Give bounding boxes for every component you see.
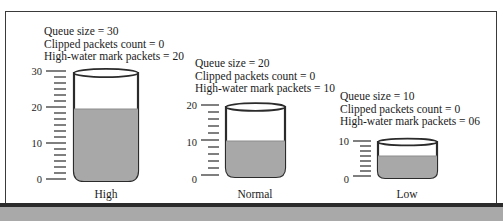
caption-low: Queue size = 10 Clipped packets count = … bbox=[340, 90, 480, 128]
figure-frame: Queue size = 30 Clipped packets count = … bbox=[5, 11, 497, 205]
caption-low-line1: Queue size = 10 bbox=[340, 90, 480, 103]
beaker-label-high: High bbox=[76, 188, 136, 200]
panel-normal: Queue size = 20 Clipped packets count = … bbox=[151, 12, 311, 204]
beaker-high-rim bbox=[74, 69, 138, 77]
beaker-high-graphic bbox=[44, 67, 140, 187]
page-bottom-shadow bbox=[0, 207, 503, 221]
beaker-normal-rim bbox=[226, 103, 285, 111]
caption-low-line2: Clipped packets count = 0 bbox=[340, 103, 480, 116]
scale-ticks-high bbox=[46, 71, 66, 179]
axis-tick-label-low-0: 0 bbox=[327, 174, 349, 185]
figure-root: Queue size = 30 Clipped packets count = … bbox=[0, 0, 503, 221]
beaker-high-fill bbox=[72, 109, 140, 183]
axis-tick-label-high-10: 10 bbox=[20, 138, 42, 149]
beaker-normal-fill bbox=[224, 141, 287, 179]
axis-tick-label-high-30: 30 bbox=[20, 66, 42, 77]
beaker-low-rim bbox=[378, 139, 437, 146]
axis-tick-label-high-0: 0 bbox=[20, 174, 42, 185]
beaker-low-graphic bbox=[351, 137, 441, 191]
axis-tick-label-normal-10: 10 bbox=[175, 137, 197, 148]
beaker-low bbox=[351, 137, 441, 191]
panel-low: Queue size = 10 Clipped packets count = … bbox=[301, 12, 496, 204]
axis-tick-label-normal-0: 0 bbox=[175, 174, 197, 185]
axis-tick-label-normal-20: 20 bbox=[175, 100, 197, 111]
beaker-normal bbox=[199, 101, 289, 189]
scale-ticks-normal bbox=[201, 105, 219, 175]
axis-tick-label-low-10: 10 bbox=[327, 136, 349, 147]
scale-ticks-low bbox=[353, 141, 371, 176]
caption-low-line3: High-water mark packets = 06 bbox=[340, 115, 480, 128]
panel-high: Queue size = 30 Clipped packets count = … bbox=[6, 12, 166, 204]
beaker-label-normal: Normal bbox=[225, 188, 285, 200]
beaker-low-fill bbox=[376, 156, 439, 180]
axis-tick-label-high-20: 20 bbox=[20, 102, 42, 113]
beaker-label-low: Low bbox=[377, 188, 437, 200]
beaker-normal-graphic bbox=[199, 101, 289, 189]
beaker-high bbox=[44, 67, 140, 187]
